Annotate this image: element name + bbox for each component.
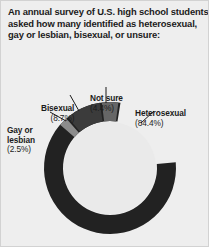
donut-chart: Heterosexual (84.4%) Not sure (4.4%) Bis… [1, 45, 208, 246]
callout-heterosexual: Heterosexual (84.4%) [135, 109, 186, 128]
title-line-2: asked how many identified as heterosexua… [8, 18, 204, 30]
donut-hole [64, 122, 156, 214]
title-line-1: An annual survey of U.S. high school stu… [8, 6, 204, 18]
callout-not-sure: Not sure (4.4%) [90, 94, 123, 113]
title-line-3: gay or lesbian, bisexual, or unsure: [8, 29, 204, 41]
callout-bisexual: Bisexual (8.7%) [41, 104, 74, 123]
page-title: An annual survey of U.S. high school stu… [8, 6, 204, 41]
callout-gay-lesbian: Gay or lesbian (2.5%) [7, 126, 35, 155]
callout-gay-lesbian-value: (2.5%) [7, 145, 35, 155]
infographic-card: An annual survey of U.S. high school stu… [0, 0, 209, 247]
callout-heterosexual-value: (84.4%) [135, 119, 186, 129]
callout-bisexual-value: (8.7%) [41, 114, 74, 124]
callout-not-sure-value: (4.4%) [90, 104, 123, 114]
